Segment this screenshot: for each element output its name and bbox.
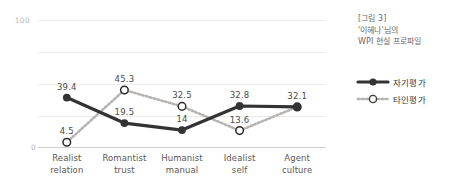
- category-label-line: self: [211, 164, 269, 176]
- category-label-line: Romantist: [96, 152, 154, 164]
- category-label-line: Idealist: [211, 152, 269, 164]
- solid-line-filled-circle-icon: [356, 75, 390, 89]
- x-axis-category-1: Realistrelation: [38, 152, 96, 190]
- data-point-label: 19.5: [115, 107, 135, 117]
- data-point-label: 45.3: [115, 74, 135, 84]
- data-point-label: 32.5: [172, 90, 192, 100]
- data-point-label: 4.5: [60, 126, 74, 136]
- category-label-line: Realist: [38, 152, 96, 164]
- series-canvas: [38, 20, 326, 148]
- line-chart: 100 0 39.419.51432.832.14.545.332.513.6 …: [0, 0, 340, 191]
- data-point-label: 32.8: [230, 90, 250, 100]
- data-point-label: 32.1: [287, 91, 307, 101]
- caption-line-1: [그림 3]: [358, 13, 453, 25]
- chart-legend: 자기평가 타인평가: [356, 73, 453, 107]
- x-axis-category-3: Humanistmanual: [153, 152, 211, 190]
- chart-screenshot: 100 0 39.419.51432.832.14.545.332.513.6 …: [0, 0, 453, 191]
- legend-item-self: 자기평가: [356, 73, 453, 90]
- data-point-other: [121, 86, 129, 94]
- dotted-line-hollow-circle-icon: [356, 92, 390, 106]
- category-label-line: Agent: [268, 152, 326, 164]
- data-point-other: [236, 127, 244, 135]
- data-point-label: 14: [176, 114, 187, 124]
- legend-label-self: 자기평가: [390, 76, 426, 88]
- x-axis-category-2: Romantisttrust: [96, 152, 154, 190]
- caption-line-2: '이혜나'님의: [358, 25, 453, 37]
- data-point-other: [63, 138, 71, 146]
- category-label-line: relation: [38, 164, 96, 176]
- x-axis-category-4: Idealistself: [211, 152, 269, 190]
- data-point-self: [178, 126, 186, 134]
- legend-item-other: 타인평가: [356, 90, 453, 107]
- category-label-line: Humanist: [153, 152, 211, 164]
- x-axis-category-5: Agentculture: [268, 152, 326, 190]
- caption-line-3: WPI 현실 프로파일: [358, 36, 453, 48]
- y-axis-tick-zero: 0: [10, 143, 36, 152]
- data-point-self: [236, 102, 244, 110]
- figure-caption: [그림 3] '이혜나'님의 WPI 현실 프로파일: [358, 13, 453, 48]
- x-axis-category-labels: RealistrelationRomantisttrustHumanistman…: [38, 152, 326, 190]
- category-label-line: culture: [268, 164, 326, 176]
- data-point-label: 39.4: [57, 82, 77, 92]
- side-panel: [그림 3] '이혜나'님의 WPI 현실 프로파일 자기평가: [356, 0, 453, 191]
- category-label-line: trust: [96, 164, 154, 176]
- data-point-other: [178, 103, 186, 111]
- data-point-self: [63, 94, 71, 102]
- data-point-self: [121, 119, 129, 127]
- category-label-line: manual: [153, 164, 211, 176]
- data-point-self: [293, 103, 301, 111]
- data-point-label: 13.6: [230, 115, 250, 125]
- legend-label-other: 타인평가: [390, 93, 426, 105]
- y-axis-tick-top: 100: [4, 16, 30, 25]
